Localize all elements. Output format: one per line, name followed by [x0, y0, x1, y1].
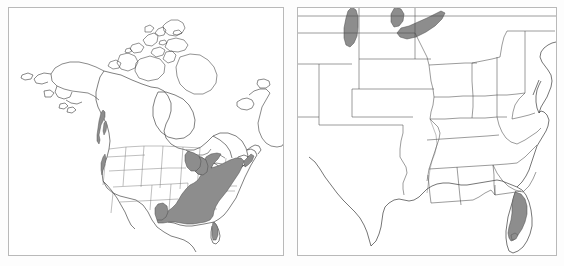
- map-background: [8, 7, 284, 256]
- north-america-map-svg: [8, 7, 284, 256]
- figure-container: [0, 0, 564, 266]
- eastern-us-map-svg: [297, 7, 557, 256]
- eastern-us-map-panel[interactable]: [297, 7, 557, 256]
- north-america-map-panel[interactable]: [8, 7, 284, 256]
